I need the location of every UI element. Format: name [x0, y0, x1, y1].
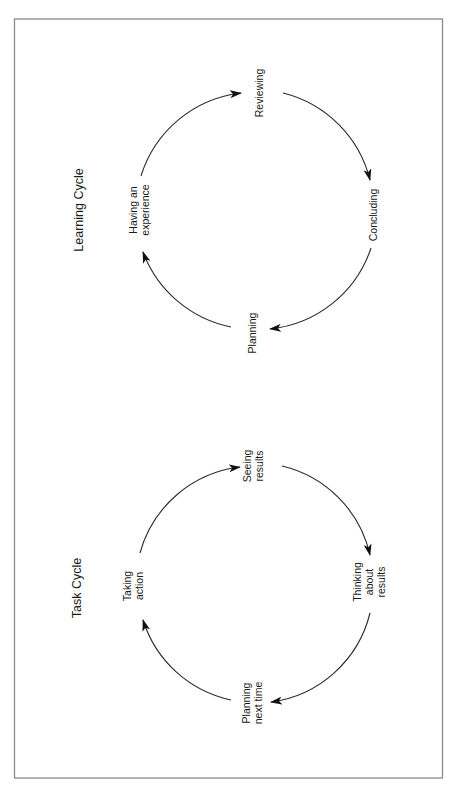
learning-cycle-title: Learning Cycle	[72, 168, 86, 251]
task-cycle-title: Task Cycle	[70, 558, 84, 618]
stage-label-line: Reviewing	[253, 69, 265, 118]
learning-arrow-concluding-to-planning	[270, 248, 371, 329]
stage-seeing-results: Seeing results	[241, 449, 265, 482]
stage-reviewing: Reviewing	[253, 69, 265, 118]
learning-cycle: Learning Cycle Having an experience Revi…	[72, 69, 379, 354]
task-arrow-action-to-seeing	[140, 467, 240, 553]
task-arrow-thinking-to-planning	[271, 613, 370, 702]
stage-label-line: about	[363, 569, 375, 595]
stage-having-an-experience: Having an experience	[127, 184, 151, 236]
stage-planning-next-time: Planning next time	[240, 682, 264, 725]
cycles-diagram: Learning Cycle Having an experience Revi…	[0, 0, 453, 789]
stage-thinking-about-results: Thinking about results	[351, 562, 387, 602]
stage-label-line: Thinking	[351, 562, 363, 602]
stage-label-line: Having an	[127, 186, 139, 233]
stage-label-line: experience	[139, 184, 151, 236]
stage-label-line: Taking	[121, 571, 133, 602]
task-cycle: Task Cycle Taking action Seeing results …	[70, 449, 387, 724]
learning-arrow-planning-to-experience	[143, 252, 231, 327]
stage-label-line: results	[375, 567, 387, 598]
task-arrow-seeing-to-thinking	[282, 466, 370, 555]
stage-label-line: results	[253, 451, 265, 482]
stage-taking-action: Taking action	[121, 571, 145, 602]
stage-label-line: Concluding	[367, 189, 379, 242]
stage-label-line: Planning	[240, 682, 252, 723]
diagram-frame	[15, 19, 443, 778]
stage-label-line: Planning	[246, 312, 258, 353]
stage-planning: Planning	[246, 312, 258, 353]
stage-label-line: Seeing	[241, 449, 253, 482]
learning-arrow-reviewing-to-concluding	[283, 93, 370, 180]
learning-arrow-experience-to-reviewing	[141, 93, 241, 176]
stage-label-line: action	[133, 572, 145, 600]
task-arrow-planning-to-action	[143, 620, 231, 700]
stage-label-line: next time	[252, 682, 264, 725]
stage-concluding: Concluding	[367, 189, 379, 242]
